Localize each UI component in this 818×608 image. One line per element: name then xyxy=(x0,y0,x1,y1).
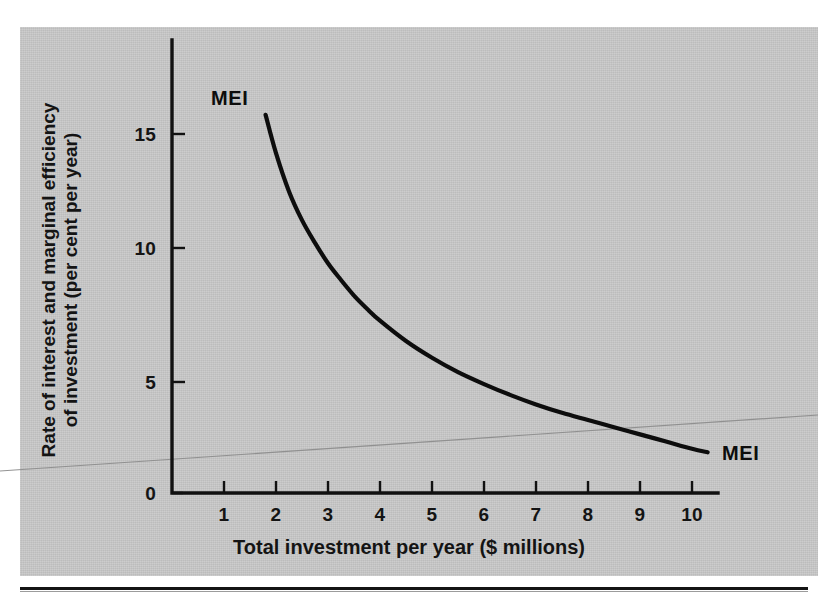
y-axis-ticks xyxy=(172,134,185,493)
x-tick-label-1: 1 xyxy=(219,505,230,524)
y-axis-title: Rate of interest and marginal efficiency… xyxy=(38,103,83,458)
scan-artifact-line xyxy=(0,415,818,471)
mei-label-top: MEI xyxy=(211,87,248,110)
x-tick-label-10: 10 xyxy=(681,505,703,524)
x-tick-label-5: 5 xyxy=(427,505,438,524)
footer-rule-shadow xyxy=(20,591,808,592)
y-tick-label-15: 15 xyxy=(118,125,156,144)
chart-axes xyxy=(172,40,718,493)
x-tick-label-8: 8 xyxy=(583,505,594,524)
x-tick-label-2: 2 xyxy=(271,505,282,524)
x-tick-label-3: 3 xyxy=(323,505,334,524)
y-tick-label-0: 0 xyxy=(128,484,156,503)
y-axis-title-line2: of investment (per cent per year) xyxy=(60,133,81,428)
footer-rule xyxy=(20,587,808,590)
mei-label-right: MEI xyxy=(722,442,759,465)
x-axis-ticks xyxy=(224,481,692,493)
mei-curve xyxy=(266,115,708,452)
x-axis-title: Total investment per year ($ millions) xyxy=(233,536,585,560)
y-axis-title-line1: Rate of interest and marginal efficiency xyxy=(38,103,59,458)
y-tick-label-5: 5 xyxy=(128,373,156,392)
x-tick-label-6: 6 xyxy=(479,505,490,524)
x-tick-label-9: 9 xyxy=(635,505,646,524)
x-tick-label-7: 7 xyxy=(531,505,542,524)
y-tick-label-10: 10 xyxy=(118,239,156,258)
x-tick-label-4: 4 xyxy=(375,505,386,524)
chart-figure: 0 5 10 15 1 2 3 4 5 6 7 8 9 10 Total inv… xyxy=(0,0,818,608)
